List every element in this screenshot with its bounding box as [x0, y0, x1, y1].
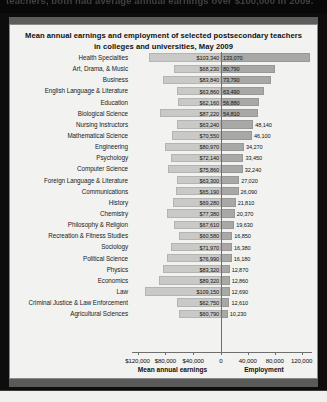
bar-track: $77,38020,370 [132, 208, 318, 219]
chart-row: Law$109,15012,690 [10, 286, 318, 297]
axis-tick [193, 352, 194, 355]
chart-row: Nursing Instructors$63,24048,140 [10, 119, 318, 130]
category-label: Education [10, 99, 132, 106]
employment-bar [221, 176, 239, 184]
employment-half: 63,490 [221, 87, 315, 95]
earnings-value-label: $63,860 [199, 89, 219, 95]
earnings-value-label: $62,750 [199, 300, 219, 306]
earnings-half: $76,990 [132, 254, 221, 262]
bar-track: $87,22054,810 [132, 108, 318, 119]
earnings-value-label: $103,340 [196, 55, 219, 61]
chart-row: Agricultural Sciences$60,79010,230 [10, 308, 318, 319]
earnings-half: $63,300 [132, 176, 221, 184]
chart-row: Sociology$71,97016,380 [10, 241, 318, 252]
earnings-value-label: $63,240 [199, 122, 219, 128]
employment-bar [221, 232, 232, 240]
employment-half: 32,240 [221, 165, 315, 173]
chart-row: Computer Science$75,86032,240 [10, 163, 318, 174]
employment-bar [221, 276, 230, 284]
x-axis-tick-labels: $120,000$80,000$40,000040,00080,000120,0… [10, 357, 318, 366]
earnings-value-label: $109,150 [196, 289, 219, 295]
employment-bar [221, 131, 252, 139]
earnings-value-label: $75,860 [199, 167, 219, 173]
chart-row: Chemistry$77,38020,370 [10, 208, 318, 219]
plot-area: Health Specialties$103,340133,070Art, Dr… [10, 52, 318, 352]
bar-track: $62,16056,880 [132, 97, 318, 108]
chart-title-line-2: in colleges and universities, May 2009 [17, 41, 310, 52]
employment-bar [221, 287, 230, 295]
earnings-half: $63,240 [132, 120, 221, 128]
employment-half: 46,100 [221, 131, 315, 139]
employment-half: 56,880 [221, 98, 315, 106]
bar-track: $60,58016,850 [132, 230, 318, 241]
earnings-half: $62,160 [132, 98, 221, 106]
employment-half: 34,270 [221, 143, 315, 151]
employment-value-label: 73,790 [223, 77, 240, 83]
earnings-half: $89,320 [132, 276, 221, 284]
category-label: Chemistry [10, 210, 132, 217]
earnings-value-label: $63,300 [199, 178, 219, 184]
axis-tick [221, 352, 222, 355]
employment-value-label: 80,790 [223, 66, 240, 72]
earnings-half: $63,860 [132, 87, 221, 95]
employment-bar [221, 265, 230, 273]
category-label: Mathematical Science [10, 132, 132, 139]
earnings-value-label: $83,320 [199, 267, 219, 273]
chart-row: History$69,28021,810 [10, 197, 318, 208]
chart-row: English Language & Literature$63,86063,4… [10, 85, 318, 96]
earnings-value-label: $87,220 [199, 111, 219, 117]
employment-value-label: 48,140 [255, 122, 272, 128]
earnings-half: $75,860 [132, 165, 221, 173]
employment-value-label: 12,610 [231, 300, 248, 306]
chart-row: Business$83,84073,790 [10, 74, 318, 85]
employment-bar [221, 310, 228, 318]
employment-half: 12,690 [221, 287, 315, 295]
chart-row: Political Science$76,99016,180 [10, 253, 318, 264]
bar-track: $62,75012,610 [132, 297, 318, 308]
axis-tick-label: 0 [219, 357, 222, 364]
zero-axis-line [221, 52, 222, 352]
axis-tick-label: 120,000 [291, 357, 312, 364]
bar-track: $109,15012,690 [132, 286, 318, 297]
category-label: Nursing Instructors [10, 121, 132, 128]
earnings-half: $80,970 [132, 143, 221, 151]
earnings-value-label: $69,280 [199, 200, 219, 206]
employment-value-label: 10,230 [230, 311, 247, 317]
employment-half: 12,860 [221, 276, 315, 284]
x-axis-line [132, 352, 312, 353]
earnings-half: $69,280 [132, 198, 221, 206]
earnings-axis-title: Mean annual earnings [138, 366, 207, 373]
category-label: Biological Science [10, 110, 132, 117]
employment-half: 19,630 [221, 221, 315, 229]
earnings-value-label: $80,970 [199, 144, 219, 150]
earnings-half: $72,140 [132, 154, 221, 162]
earnings-half: $60,580 [132, 232, 221, 240]
employment-value-label: 26,090 [241, 189, 258, 195]
earnings-value-label: $72,140 [199, 155, 219, 161]
employment-bar [221, 154, 243, 162]
axis-tick-label: $120,000 [125, 357, 150, 364]
bar-track: $63,30027,020 [132, 175, 318, 186]
employment-half: 48,140 [221, 120, 315, 128]
category-label: Political Science [10, 255, 132, 262]
employment-half: 54,810 [221, 109, 315, 117]
page-bottom-edge [0, 390, 327, 402]
category-label: Recreation & Fitness Studies [10, 232, 132, 239]
earnings-half: $103,340 [132, 53, 221, 61]
earnings-value-label: $60,790 [199, 311, 219, 317]
employment-half: 80,790 [221, 65, 315, 73]
employment-bar [221, 221, 234, 229]
chart-row: Recreation & Fitness Studies$60,58016,85… [10, 230, 318, 241]
earnings-half: $83,320 [132, 265, 221, 273]
axis-tick [138, 352, 139, 355]
earnings-value-label: $83,840 [199, 77, 219, 83]
bar-track: $72,14033,450 [132, 152, 318, 163]
bar-track: $63,86063,490 [132, 85, 318, 96]
earnings-value-label: $65,190 [199, 189, 219, 195]
category-label: Communications [10, 188, 132, 195]
chart-row: Mathematical Science$70,55046,100 [10, 130, 318, 141]
employment-value-label: 19,630 [236, 222, 253, 228]
employment-half: 21,810 [221, 198, 315, 206]
employment-bar [221, 298, 229, 306]
